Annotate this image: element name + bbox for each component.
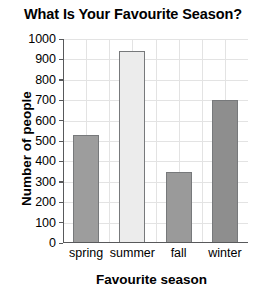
y-tick-label: 400 <box>4 155 56 168</box>
x-tick-label-winter: winter <box>185 246 265 260</box>
y-tick-label: 200 <box>4 196 56 209</box>
y-tick-label: 700 <box>4 94 56 107</box>
y-tick-label: 100 <box>4 217 56 230</box>
plot-frame <box>63 39 248 243</box>
y-tick-label: 900 <box>4 53 56 66</box>
x-axis-label: Favourite season <box>54 272 249 287</box>
chart-title: What Is Your Favourite Season? <box>0 6 266 22</box>
y-tick-label: 500 <box>4 135 56 148</box>
y-tick-label: 300 <box>4 176 56 189</box>
y-tick-label: 600 <box>4 115 56 128</box>
y-tick-label: 1000 <box>4 33 56 46</box>
bar-chart-figure: What Is Your Favourite Season? Number of… <box>0 0 266 299</box>
y-tick-label: 800 <box>4 74 56 87</box>
